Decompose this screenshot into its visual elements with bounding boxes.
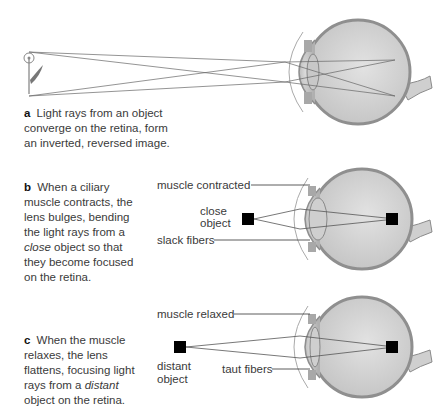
label-close-2: object bbox=[200, 216, 231, 230]
caption-c: c When the muscle relaxes, the lens flat… bbox=[24, 333, 139, 408]
label-slack-fibers: slack fibers bbox=[157, 233, 215, 247]
panel-letter-b: b bbox=[24, 181, 31, 193]
label-taut-fibers: taut fibers bbox=[222, 362, 273, 376]
panel-letter-a: a bbox=[24, 107, 30, 119]
panel-letter-c: c bbox=[24, 334, 30, 346]
label-muscle-relaxed: muscle relaxed bbox=[157, 307, 234, 321]
flower-object-icon bbox=[24, 53, 43, 94]
eye-a bbox=[289, 20, 432, 124]
eye-b bbox=[294, 169, 432, 269]
label-distant-1: distant bbox=[157, 359, 191, 373]
label-muscle-contracted: muscle contracted bbox=[157, 178, 250, 192]
eye-c bbox=[294, 297, 432, 397]
caption-a: a Light rays from an object converge on … bbox=[24, 106, 224, 151]
caption-b: b When a ciliary muscle contracts, the l… bbox=[24, 180, 142, 285]
label-distant-2: object bbox=[157, 372, 188, 386]
